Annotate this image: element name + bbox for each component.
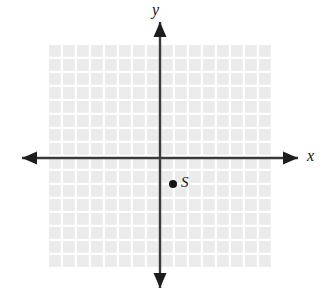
axes-layer: [0, 0, 328, 288]
y-axis: [154, 22, 167, 288]
y-axis-arrow-down-icon: [154, 273, 167, 288]
y-axis-arrow-up-icon: [154, 22, 167, 37]
x-axis-arrow-left-icon: [22, 152, 37, 165]
coordinate-plane-figure: y x S: [0, 0, 328, 288]
x-axis-arrow-right-icon: [283, 152, 298, 165]
point-s-marker: [169, 180, 177, 188]
point-s-label: S: [181, 175, 189, 190]
y-axis-label: y: [152, 2, 159, 18]
x-axis-label: x: [307, 148, 314, 164]
